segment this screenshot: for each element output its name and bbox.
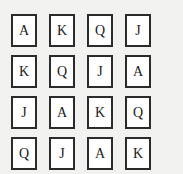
card-rank: Q — [57, 65, 67, 79]
card-rank: K — [57, 24, 67, 38]
card[interactable]: J — [49, 137, 75, 170]
card[interactable]: K — [11, 55, 37, 88]
card[interactable]: A — [49, 96, 75, 129]
card-rank: Q — [95, 24, 105, 38]
card[interactable]: J — [87, 55, 113, 88]
card-rank: K — [95, 106, 105, 120]
card-grid-inner: A K Q J K Q J A J A K — [11, 14, 151, 170]
card-rank: K — [19, 65, 29, 79]
card-rank: Q — [19, 147, 29, 161]
card[interactable]: A — [125, 55, 151, 88]
card[interactable]: J — [11, 96, 37, 129]
card[interactable]: Q — [87, 14, 113, 47]
card[interactable]: Q — [125, 96, 151, 129]
card[interactable]: A — [11, 14, 37, 47]
card-rank: A — [95, 147, 105, 161]
card-grid: A K Q J K Q J A J A K — [0, 0, 183, 174]
card[interactable]: A — [87, 137, 113, 170]
card[interactable]: Q — [11, 137, 37, 170]
card-rank: A — [19, 24, 29, 38]
card-rank: A — [57, 106, 67, 120]
card[interactable]: K — [87, 96, 113, 129]
card[interactable]: J — [125, 14, 151, 47]
card-rank: A — [133, 65, 143, 79]
card-rank: K — [133, 147, 143, 161]
card[interactable]: K — [49, 14, 75, 47]
card-rank: J — [21, 106, 26, 120]
card-rank: J — [135, 24, 140, 38]
card-rank: J — [97, 65, 102, 79]
card-rank: Q — [133, 106, 143, 120]
card[interactable]: K — [125, 137, 151, 170]
card-rank: J — [59, 147, 64, 161]
card[interactable]: Q — [49, 55, 75, 88]
